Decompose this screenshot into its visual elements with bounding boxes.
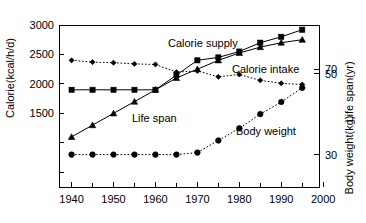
series-marker: [299, 85, 305, 91]
y-tick-label-left: 2500: [30, 48, 54, 60]
x-tick-label: 2000: [311, 193, 335, 205]
x-tick-label: 1970: [185, 193, 209, 205]
series-marker: [90, 60, 95, 65]
series-marker: [111, 60, 116, 65]
series-marker: [153, 62, 158, 67]
series-marker: [257, 111, 263, 117]
series-marker: [68, 134, 74, 140]
series-marker: [216, 138, 222, 144]
series-marker: [132, 152, 138, 158]
series-marker: [216, 74, 221, 79]
x-tick-label: 1960: [143, 193, 167, 205]
series-marker: [300, 27, 305, 32]
series-marker: [153, 152, 159, 158]
series-marker: [279, 34, 284, 39]
series-marker: [279, 81, 284, 86]
series-marker: [194, 66, 200, 72]
y-axis-title-left: Calorie(kcal/h/d): [4, 38, 16, 118]
y-tick-label-left: 1500: [30, 107, 54, 119]
plot-frame: [59, 25, 319, 187]
series-label-life-span: Life span: [132, 112, 177, 124]
y-axis-title-bodyweight: Body weight(kg): [343, 116, 355, 195]
series-marker: [90, 87, 95, 92]
x-tick-label: 1980: [227, 193, 251, 205]
series-marker: [195, 150, 201, 156]
series-marker: [90, 152, 96, 158]
series-marker: [299, 37, 305, 43]
y-tick-label-left: 3000: [30, 19, 54, 31]
x-tick-label: 1940: [59, 193, 83, 205]
series-label-calorie-supply: Calorie supply: [168, 37, 238, 49]
series-marker: [132, 61, 137, 66]
series-marker: [111, 152, 117, 158]
series-line: [72, 88, 303, 155]
series-marker: [110, 110, 116, 116]
x-tick-label: 1990: [269, 193, 293, 205]
y-tick-label-left: 2000: [30, 78, 54, 90]
series-marker: [195, 58, 200, 63]
series-marker: [111, 87, 116, 92]
series-marker: [89, 122, 95, 128]
series-marker: [69, 58, 74, 63]
chart-container: 1940195019601970198019902000300025002000…: [0, 0, 366, 223]
y-axis-title-lifespan: Life span(yr): [343, 61, 355, 122]
series-label-calorie-intake: Calorie intake: [232, 63, 299, 75]
series-marker: [132, 87, 137, 92]
chart-canvas: 1940195019601970198019902000300025002000…: [0, 0, 366, 223]
series-marker: [131, 98, 137, 104]
series-label-body-weight: Body weight: [236, 125, 296, 137]
y-tick-label-right: 50: [325, 68, 337, 80]
x-tick-label: 1950: [101, 193, 125, 205]
series-marker: [174, 152, 180, 158]
series-marker: [258, 78, 263, 83]
series-marker: [69, 152, 75, 158]
series-marker: [69, 87, 74, 92]
y-tick-label-right: 30: [325, 149, 337, 161]
series-marker: [278, 99, 284, 105]
series-line: [72, 40, 303, 137]
